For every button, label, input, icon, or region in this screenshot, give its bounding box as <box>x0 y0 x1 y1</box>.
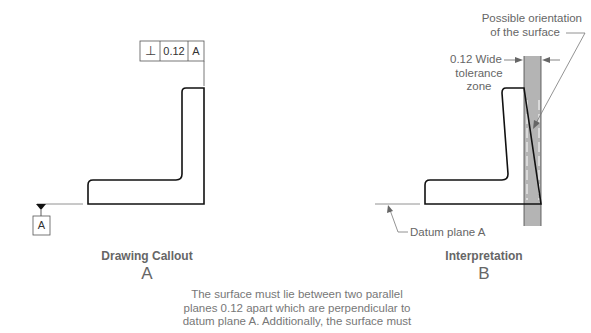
arrow-right-icon <box>515 57 523 63</box>
arrow-left-icon <box>542 57 550 63</box>
caption-interpretation: Interpretation <box>404 249 564 263</box>
datum-plane-leader <box>390 210 408 232</box>
fcf-datum: A <box>188 45 204 57</box>
note-tolerance-zone: 0.12 Wide tolerance zone <box>444 53 514 94</box>
datum-leader-arrow-icon <box>387 205 393 213</box>
caption-drawing-callout: Drawing Callout <box>67 249 227 263</box>
datum-triangle-icon <box>36 204 46 210</box>
orientation-leader <box>535 33 585 125</box>
part-outline-callout <box>88 88 204 204</box>
fcf-tolerance: 0.12 <box>160 45 188 57</box>
note-datum-plane: Datum plane A <box>410 226 485 240</box>
datum-feature-label: A <box>33 219 50 231</box>
note-orientation: Possible orientation of the surface <box>470 12 582 39</box>
description-text: The surface must lie between two paralle… <box>166 288 428 329</box>
caption-letter-a: A <box>67 264 227 284</box>
caption-letter-b: B <box>404 264 564 284</box>
perpendicularity-symbol-icon: ⊥ <box>143 43 157 58</box>
